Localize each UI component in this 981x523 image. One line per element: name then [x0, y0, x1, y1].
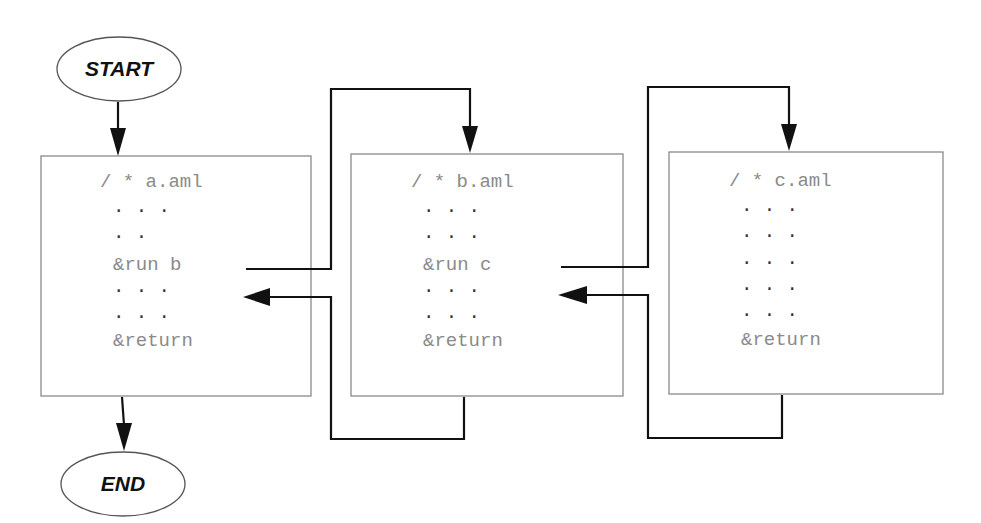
end-terminal: END	[61, 452, 185, 516]
start-terminal: START	[57, 37, 181, 101]
file-c-line-1: · · ·	[741, 199, 798, 221]
file-b-line-2: · · ·	[423, 226, 480, 248]
file-a-line-1: · · ·	[113, 200, 170, 222]
file-box-c: / * c.aml · · · · · · · · · · · · · · · …	[669, 152, 943, 394]
arrowhead-down-icon	[462, 126, 478, 153]
arrowhead-down-icon	[110, 128, 126, 156]
start-to-a-arrow	[110, 102, 126, 156]
file-b-line-4: · · ·	[423, 280, 480, 302]
file-b-line-5: · · ·	[423, 306, 480, 328]
file-c-line-2: · · ·	[741, 225, 798, 247]
file-a-line-4: · · ·	[113, 280, 170, 302]
file-a-line-6: &return	[113, 330, 193, 352]
file-a-line-2: · ·	[113, 226, 147, 248]
file-c-line-6: &return	[741, 329, 821, 351]
file-a-comment: / * a.aml	[100, 171, 203, 193]
file-a-line-3: &run b	[113, 254, 181, 276]
file-box-a: / * a.aml · · · · · &run b · · · · · · &…	[41, 156, 311, 396]
file-c-comment: / * c.aml	[729, 170, 832, 192]
file-c-line-4: · · ·	[741, 278, 798, 300]
file-b-line-3: &run c	[423, 254, 491, 276]
arrowhead-down-icon	[116, 423, 132, 451]
file-a-line-5: · · ·	[113, 306, 170, 328]
file-box-b: / * b.aml · · · · · · &run c · · · · · ·…	[351, 154, 623, 396]
file-b-line-1: · · ·	[423, 200, 480, 222]
file-c-line-3: · · ·	[741, 252, 798, 274]
a-to-end-arrow	[116, 397, 132, 451]
arrowhead-down-icon	[781, 124, 797, 151]
file-b-line-6: &return	[423, 330, 503, 352]
file-b-comment: / * b.aml	[411, 171, 514, 193]
file-c-line-5: · · ·	[741, 304, 798, 326]
aml-call-flow-diagram: START / * a.aml · · · · · &run b · · · ·…	[0, 0, 981, 523]
end-label: END	[101, 472, 145, 495]
start-label: START	[85, 57, 155, 80]
